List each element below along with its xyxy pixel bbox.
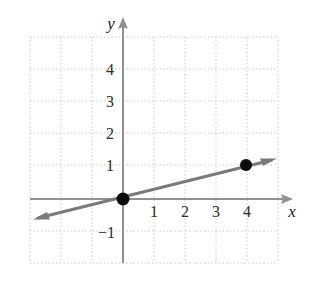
y-tick-label-3: 3 [106,93,114,110]
x-tick-label-1: 1 [150,203,158,220]
x-tick-label-3: 3 [212,203,220,220]
plot-background [0,0,313,286]
y-tick-label-4: 4 [106,61,114,78]
graph-figure: 4 3 2 1 −1 1 2 3 4 y x [0,0,313,286]
coordinate-plane-svg: 4 3 2 1 −1 1 2 3 4 y x [0,0,313,286]
x-tick-label-4: 4 [243,203,251,220]
origin-point [117,193,130,206]
x-axis-label: x [287,202,296,221]
x-tick-label-2: 2 [181,203,189,220]
y-tick-label-negative-1: −1 [98,224,115,241]
y-axis-label: y [105,14,115,33]
y-tick-label-1: 1 [106,157,114,174]
plotted-point-4-1 [240,159,252,171]
y-tick-label-2: 2 [106,125,114,142]
